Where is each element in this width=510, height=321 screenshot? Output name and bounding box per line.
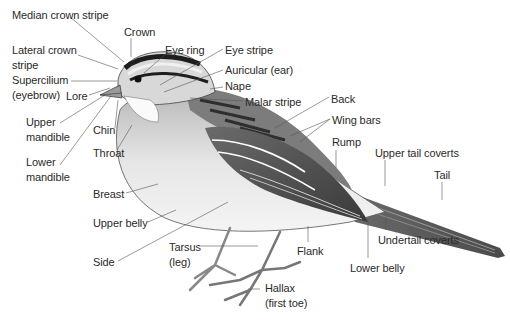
label-tail: Tail — [434, 168, 450, 183]
label-lore: Lore — [66, 89, 88, 104]
label-crown: Crown — [124, 25, 155, 40]
label-upper-mandible: Upper mandible — [26, 115, 70, 145]
label-side: Side — [93, 255, 115, 270]
label-eye-stripe: Eye stripe — [225, 43, 273, 58]
label-auricular: Auricular (ear) — [225, 63, 293, 78]
eye — [135, 76, 142, 83]
label-lower-mandible: Lower mandible — [26, 155, 70, 185]
label-chin: Chin — [93, 123, 115, 138]
label-wing-bars: Wing bars — [332, 113, 381, 128]
label-lower-belly: Lower belly — [350, 261, 405, 276]
label-lateral-crown-stripe: Lateral crown stripe — [12, 43, 77, 73]
label-rump: Rump — [332, 135, 361, 150]
label-breast: Breast — [93, 187, 124, 202]
label-upper-belly: Upper belly — [93, 216, 148, 231]
label-median-crown-stripe: Median crown stripe — [12, 8, 109, 23]
label-eye-ring: Eye ring — [165, 43, 205, 58]
label-malar-stripe: Malar stripe — [245, 95, 301, 110]
label-upper-tail-coverts: Upper tail coverts — [375, 146, 459, 161]
label-nape: Nape — [225, 79, 251, 94]
label-hallax: Hallax (first toe) — [265, 281, 307, 311]
label-supercilium: Supercilium (eyebrow) — [12, 73, 68, 103]
bird-topography-diagram: Median crown stripe Crown Lateral crown … — [0, 0, 510, 321]
label-throat: Throat — [93, 146, 124, 161]
label-flank: Flank — [297, 244, 323, 259]
label-undertail-coverts: Undertail coverts — [378, 233, 459, 248]
label-back: Back — [331, 92, 355, 107]
label-tarsus: Tarsus (leg) — [169, 240, 201, 270]
